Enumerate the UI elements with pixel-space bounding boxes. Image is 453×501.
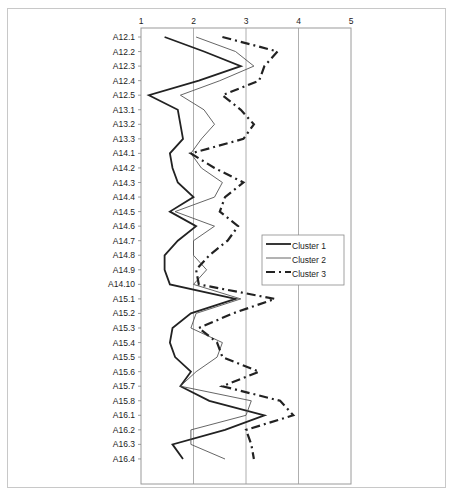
legend-label-cluster-3: Cluster 3 — [292, 269, 326, 279]
y-category-label: A14.3 — [113, 178, 135, 188]
y-category-label: A16.1 — [113, 410, 135, 420]
x-tick-label: 1 — [139, 16, 144, 26]
y-category-label: A15.1 — [113, 294, 135, 304]
y-category-label: A15.8 — [113, 396, 135, 406]
legend: Cluster 1Cluster 2Cluster 3 — [262, 235, 344, 285]
y-category-label: A15.5 — [113, 352, 135, 362]
y-category-label: A16.2 — [113, 425, 135, 435]
profile-line-chart: 12345 A12.1A12.2A12.3A12.4A12.5A13.1A13.… — [0, 0, 453, 501]
y-category-label: A14.4 — [113, 192, 135, 202]
y-category-label: A13.1 — [113, 105, 135, 115]
y-category-label: A13.2 — [113, 119, 135, 129]
y-category-label: A13.3 — [113, 134, 135, 144]
y-category-label: A14.10 — [108, 279, 135, 289]
y-category-label: A14.2 — [113, 163, 135, 173]
y-category-label: A14.5 — [113, 207, 135, 217]
y-category-label: A12.2 — [113, 47, 135, 57]
legend-label-cluster-1: Cluster 1 — [292, 241, 326, 251]
series-line-cluster-2 — [175, 37, 254, 459]
y-category-label: A15.7 — [113, 381, 135, 391]
y-category-label: A14.1 — [113, 148, 135, 158]
y-category-label: A12.1 — [113, 32, 135, 42]
y-category-label: A16.4 — [113, 454, 135, 464]
y-category-label: A16.3 — [113, 439, 135, 449]
x-tick-label: 2 — [191, 16, 196, 26]
y-axis-category-labels: A12.1A12.2A12.3A12.4A12.5A13.1A13.2A13.3… — [108, 32, 141, 464]
x-tick-label: 3 — [244, 16, 249, 26]
y-category-label: A15.2 — [113, 308, 135, 318]
y-category-label: A15.6 — [113, 367, 135, 377]
legend-label-cluster-2: Cluster 2 — [292, 255, 326, 265]
x-tick-label: 5 — [349, 16, 354, 26]
x-tick-label: 4 — [296, 16, 301, 26]
y-category-label: A14.6 — [113, 221, 135, 231]
y-category-label: A14.8 — [113, 250, 135, 260]
series-line-cluster-1 — [149, 37, 265, 459]
y-category-label: A12.3 — [113, 61, 135, 71]
y-category-label: A12.5 — [113, 90, 135, 100]
y-category-label: A14.7 — [113, 236, 135, 246]
y-category-label: A15.4 — [113, 338, 135, 348]
y-category-label: A14.9 — [113, 265, 135, 275]
y-category-label: A15.3 — [113, 323, 135, 333]
y-category-label: A12.4 — [113, 76, 135, 86]
x-axis-ticks: 12345 — [139, 16, 354, 26]
